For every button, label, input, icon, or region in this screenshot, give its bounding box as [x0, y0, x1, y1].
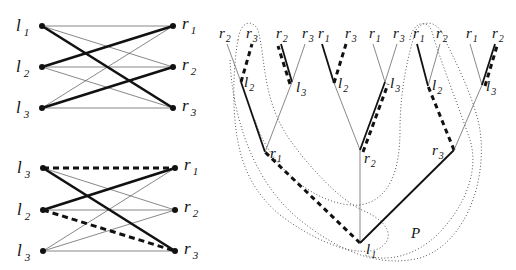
- label-bot-r-2: r3: [184, 239, 199, 261]
- path-label: P: [410, 225, 420, 241]
- node-bot-r-2: [172, 248, 178, 254]
- tree-level2-label-5: l3: [486, 78, 496, 97]
- label-top-r-0: r1: [182, 14, 196, 36]
- tree-level2-label-1: l3: [296, 79, 306, 98]
- tree-root-label: l1: [366, 241, 376, 260]
- label-bot-r-0: r1: [184, 155, 198, 177]
- left-labels-bottom: l3 l2 l3: [17, 158, 31, 263]
- node-bot-r-0: [172, 165, 178, 171]
- tree-level2-label-2: l2: [338, 75, 348, 94]
- label-top-l-1: l2: [16, 57, 30, 79]
- tree-leaf-label-6: r1: [369, 25, 381, 44]
- label-bot-r-1: r2: [184, 197, 199, 219]
- label-bot-l-2: l3: [17, 241, 31, 263]
- right-labels-bottom: r1 r2 r3: [184, 155, 199, 261]
- edges-bottom: [43, 168, 175, 251]
- right-nodes-bottom: [172, 165, 178, 254]
- tree-level1-label-2: r3: [432, 142, 444, 161]
- tree-level2-label-4: l2: [432, 77, 442, 96]
- tree-leaf-label-8: r1: [413, 25, 425, 44]
- right-labels-top: r1 r2 r3: [182, 14, 197, 118]
- node-top-r-0: [170, 23, 176, 29]
- node-top-r-2: [170, 105, 176, 111]
- label-top-r-2: r3: [182, 96, 197, 118]
- search-tree: l1 P r1 r2 r3 l2 l3 l2 l3 l2 l3 r2 r3 r2…: [219, 23, 504, 261]
- path-enclosure-outer: [230, 23, 481, 261]
- label-bot-l-1: l2: [17, 200, 31, 222]
- node-bot-l-0: [40, 165, 46, 171]
- node-top-l-0: [39, 23, 45, 29]
- tree-leaf-label-5: r3: [345, 25, 357, 44]
- tree-level2-label-3: l3: [390, 75, 400, 94]
- bipartite-graph-bottom: l3 l2 l3 r1 r2 r3: [17, 155, 199, 263]
- label-top-l-2: l3: [16, 98, 30, 120]
- left-nodes-top: [39, 23, 45, 111]
- tree-edges: [227, 44, 497, 243]
- tree-level2-label-0: l2: [244, 74, 254, 93]
- node-top-r-1: [170, 64, 176, 70]
- diagram-canvas: l1 l2 l3 r1 r2 r3 l3 l2 l3 r1 r2: [0, 0, 516, 270]
- tree-leaf-label-9: r2: [436, 25, 448, 44]
- bipartite-graph-top: l1 l2 l3 r1 r2 r3: [16, 14, 197, 120]
- edge-l2-r2-a: [227, 44, 241, 82]
- right-nodes-top: [170, 23, 176, 111]
- node-bot-l-1: [40, 207, 46, 213]
- edge-r3-l3: [454, 85, 482, 150]
- tree-level1-label-0: r1: [270, 145, 282, 164]
- edge-l2-r1-c: [417, 44, 428, 86]
- tree-leaf-label-4: r1: [318, 25, 330, 44]
- edge-r2-l3: [360, 82, 385, 150]
- tree-leaf-label-1: r3: [246, 25, 258, 44]
- edge-l3-r1-c: [470, 44, 482, 85]
- tree-leaf-label-0: r2: [219, 25, 231, 44]
- tree-leaf-label-10: r1: [466, 25, 478, 44]
- edges-top: [42, 26, 173, 108]
- label-bot-l-0: l3: [17, 158, 31, 180]
- tree-leaf-label-11: r2: [492, 25, 504, 44]
- left-nodes-bottom: [40, 165, 46, 254]
- node-top-l-1: [39, 64, 45, 70]
- edge-l2-r1-b: [322, 44, 334, 83]
- tree-leaf-label-2: r2: [276, 25, 288, 44]
- tree-level1-label-1: r2: [364, 150, 376, 169]
- node-bot-r-1: [172, 207, 178, 213]
- tree-leaf-label-7: r3: [393, 25, 405, 44]
- edge-l3-r1-b: [373, 44, 385, 82]
- tree-leaf-label-3: r3: [302, 25, 314, 44]
- label-top-r-1: r2: [182, 55, 197, 77]
- edge-r2-l3-dash: [363, 84, 388, 152]
- label-top-l-0: l1: [16, 16, 29, 38]
- edge-l3-r3-a: [292, 44, 305, 82]
- left-labels-top: l1 l2 l3: [16, 16, 30, 120]
- node-bot-l-2: [40, 248, 46, 254]
- edge-r1-l3: [265, 82, 292, 152]
- node-top-l-2: [39, 105, 45, 111]
